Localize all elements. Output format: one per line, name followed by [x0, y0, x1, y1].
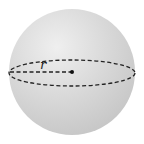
radius-label: r [40, 57, 47, 72]
center-point [70, 70, 74, 74]
sphere-diagram: r [0, 0, 144, 144]
